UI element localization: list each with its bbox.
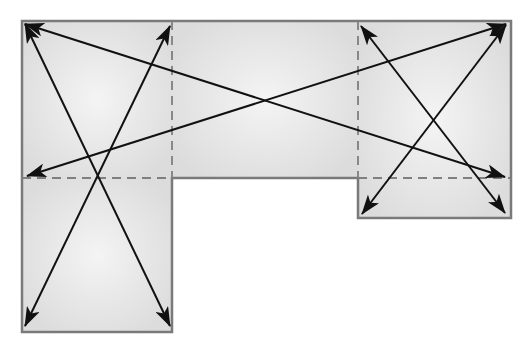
floor-plan-diagram xyxy=(0,0,530,344)
room-sections xyxy=(22,21,511,332)
section-left-bottom xyxy=(22,178,172,332)
